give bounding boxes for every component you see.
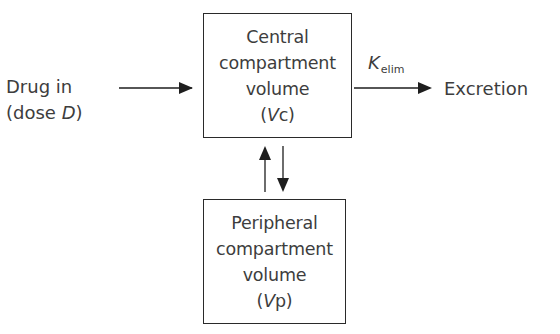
dose-input-line1: Drug in bbox=[6, 74, 83, 100]
central-compartment-box: Central compartment volume (Vc) bbox=[203, 13, 352, 138]
dose-input-label: Drug in (dose D) bbox=[6, 74, 83, 126]
transfer-down-arrow bbox=[277, 146, 289, 192]
elimination-rate-label: Kelim bbox=[368, 50, 404, 83]
central-line3: volume bbox=[246, 76, 310, 102]
dose-input-arrow bbox=[119, 82, 193, 94]
transfer-up-arrow bbox=[259, 146, 271, 192]
excretion-label: Excretion bbox=[444, 76, 528, 102]
elimination-arrow bbox=[354, 82, 432, 94]
central-line1: Central bbox=[246, 24, 308, 50]
central-volume-symbol: (Vc) bbox=[260, 102, 294, 128]
peripheral-line2: compartment bbox=[216, 236, 333, 262]
peripheral-line3: volume bbox=[243, 262, 307, 288]
central-line2: compartment bbox=[219, 50, 336, 76]
dose-input-line2: (dose D) bbox=[6, 100, 83, 126]
dose-variable: D bbox=[62, 102, 76, 123]
peripheral-line1: Peripheral bbox=[231, 210, 318, 236]
peripheral-volume-symbol: (Vp) bbox=[257, 288, 293, 314]
peripheral-compartment-box: Peripheral compartment volume (Vp) bbox=[203, 199, 346, 324]
